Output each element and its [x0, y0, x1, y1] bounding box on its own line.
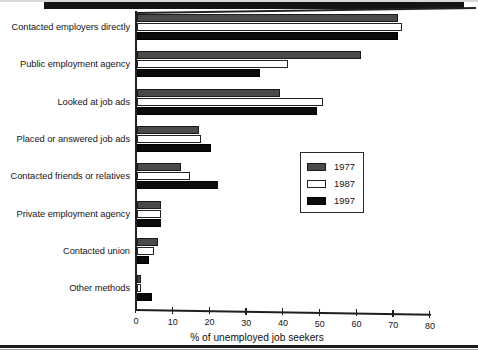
- bar-1987: [137, 284, 141, 292]
- category-label: Contacted friends or relatives: [4, 171, 130, 182]
- category-label: Other methods: [4, 283, 130, 294]
- legend-label-1997: 1997: [334, 195, 355, 206]
- x-axis-tick: [209, 307, 210, 314]
- bar-1997: [137, 144, 211, 152]
- bar-group: [137, 51, 361, 78]
- bar-1977: [137, 201, 161, 209]
- legend-item-1987: 1987: [307, 175, 363, 192]
- bar-1997: [137, 219, 161, 227]
- bar-1977: [137, 238, 158, 246]
- bar-group: [137, 89, 323, 116]
- x-axis-title: % of unemployed job seekers: [0, 332, 478, 343]
- bar-group: [137, 275, 152, 302]
- bar-group: [137, 163, 218, 190]
- stippled-swatch-icon: [307, 163, 326, 171]
- x-axis-tick: [172, 307, 173, 314]
- bar-1987: [137, 98, 323, 106]
- x-axis-tick: [356, 309, 357, 316]
- x-axis-tick: [135, 306, 136, 313]
- x-axis-tick-label: 0: [124, 316, 148, 326]
- x-axis-tick-label: 30: [234, 318, 258, 328]
- bar-group: [137, 201, 161, 228]
- scan-bottom-rule-secondary: [0, 349, 478, 350]
- x-axis-tick-label: 60: [345, 319, 369, 329]
- bar-chart: Contacted employers directlyPublic emplo…: [0, 0, 478, 356]
- bar-1997: [137, 293, 152, 301]
- category-label: Contacted employers directly: [4, 22, 130, 33]
- x-axis-tick: [319, 309, 320, 316]
- x-axis-tick-label: 70: [381, 320, 405, 330]
- x-axis-tick-label: 40: [271, 318, 295, 328]
- bar-1977: [137, 275, 141, 283]
- x-axis-tick: [392, 310, 393, 317]
- bar-1997: [137, 32, 398, 40]
- legend-label-1987: 1987: [334, 178, 355, 189]
- x-axis-tick: [245, 308, 246, 315]
- x-axis-tick: [429, 311, 430, 318]
- x-axis-tick-label: 20: [198, 317, 222, 327]
- x-axis-tick-label: 50: [308, 319, 332, 329]
- bar-1977: [137, 51, 361, 59]
- category-label: Contacted union: [4, 246, 130, 257]
- legend-item-1997: 1997: [307, 192, 363, 209]
- bar-1977: [137, 126, 199, 134]
- bar-1987: [137, 23, 402, 31]
- x-axis-tick-label: 80: [418, 321, 442, 331]
- bar-group: [137, 238, 158, 265]
- bar-group: [137, 14, 402, 41]
- legend-item-1977: 1977: [307, 158, 363, 175]
- bar-group: [137, 126, 211, 153]
- figure-top-border: [136, 7, 476, 14]
- x-axis-tick: [282, 308, 283, 315]
- bar-1977: [137, 89, 280, 97]
- category-label: Public employment agency: [4, 59, 130, 70]
- bar-1997: [137, 256, 149, 264]
- bar-1987: [137, 60, 288, 68]
- category-label: Placed or answered job ads: [4, 134, 130, 145]
- bar-1997: [137, 69, 260, 77]
- solid-black-swatch-icon: [307, 197, 326, 205]
- bar-1987: [137, 172, 190, 180]
- bar-1987: [137, 135, 201, 143]
- bar-1987: [137, 210, 161, 218]
- bar-1997: [137, 107, 317, 115]
- bar-1987: [137, 247, 154, 255]
- chart-legend: 1977 1987 1997: [300, 152, 364, 213]
- bar-1977: [137, 163, 181, 171]
- category-label: Looked at job ads: [4, 97, 130, 108]
- scan-bottom-rule: [0, 345, 478, 348]
- category-label: Private employment agency: [4, 209, 130, 220]
- bar-1997: [137, 181, 218, 189]
- legend-label-1977: 1977: [334, 161, 355, 172]
- bar-1977: [137, 14, 398, 22]
- hollow-swatch-icon: [307, 180, 326, 188]
- x-axis-tick-label: 10: [161, 317, 185, 327]
